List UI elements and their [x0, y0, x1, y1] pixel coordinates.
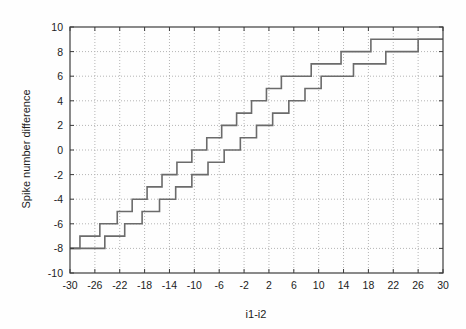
y-tick-label: -6: [54, 218, 63, 230]
y-tick-label: 6: [57, 70, 63, 82]
x-tick-label: 2: [266, 279, 272, 291]
y-tick-label: 2: [57, 119, 63, 131]
y-tick-label: -2: [54, 169, 63, 181]
x-tick-label: -22: [112, 279, 127, 291]
x-tick-label: 26: [412, 279, 424, 291]
x-tick-label: 14: [338, 279, 350, 291]
x-tick-label: 18: [363, 279, 375, 291]
x-tick-label: -6: [215, 279, 224, 291]
y-axis-label: Spike number difference: [20, 89, 32, 208]
x-tick-label: -18: [137, 279, 152, 291]
x-tick-label: -26: [87, 279, 102, 291]
y-tick-label: -10: [48, 267, 63, 279]
x-tick-label: -2: [239, 279, 248, 291]
figure-container: -30-26-22-18-14-10-6-226101418222630 -10…: [0, 0, 466, 329]
y-tick-label: -4: [54, 193, 63, 205]
y-tick-label: 0: [57, 144, 63, 156]
y-tick-label: -8: [54, 242, 63, 254]
x-axis-label: i1-i2: [246, 308, 267, 320]
y-tick-label: 8: [57, 46, 63, 58]
x-tick-label: 30: [437, 279, 449, 291]
x-tick-label: -30: [62, 279, 77, 291]
x-tick-label: 22: [387, 279, 399, 291]
x-tick-label: -10: [187, 279, 202, 291]
x-tick-label: -14: [162, 279, 177, 291]
x-tick-label: 10: [313, 279, 325, 291]
y-tick-label: 10: [51, 21, 63, 33]
y-tick-label: 4: [57, 95, 63, 107]
x-tick-label: 6: [291, 279, 297, 291]
spike-number-difference-chart: -30-26-22-18-14-10-6-226101418222630 -10…: [0, 0, 466, 329]
